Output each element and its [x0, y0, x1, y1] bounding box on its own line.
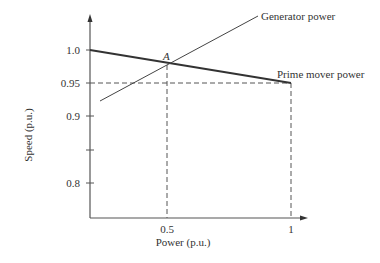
generator-line: [100, 16, 258, 101]
y-tick-0.8: 0.8: [66, 177, 80, 189]
point-a-label: A: [162, 50, 170, 62]
y-tick-0.95: 0.95: [61, 77, 81, 89]
prime-mover-power-label: Prime mover power: [277, 68, 365, 80]
x-axis-arrow-icon: [300, 216, 308, 221]
prime-mover-line: [90, 50, 291, 83]
generator-power-label: Generator power: [261, 10, 336, 22]
reference-lines: [90, 65, 291, 218]
speed-power-chart: 1.0 0.95 0.9 0.8 0.5 1 A Generator power…: [0, 0, 380, 263]
y-tick-0.9: 0.9: [66, 110, 80, 122]
y-tick-1.0: 1.0: [66, 44, 80, 56]
y-axis-arrow-icon: [88, 14, 93, 22]
x-tick-1: 1: [288, 223, 294, 235]
y-axis-label: Speed (p.u.): [22, 108, 35, 162]
x-axis-label: Power (p.u.): [156, 236, 211, 249]
x-tick-0.5: 0.5: [160, 223, 174, 235]
